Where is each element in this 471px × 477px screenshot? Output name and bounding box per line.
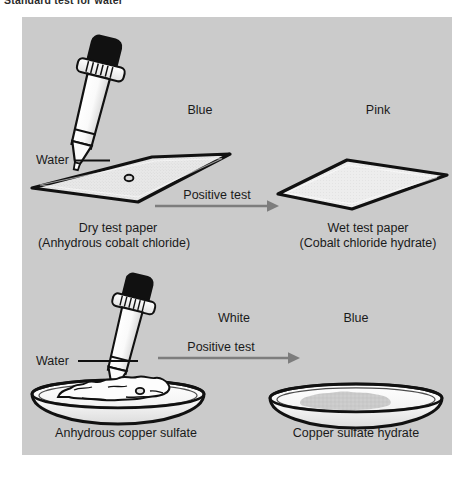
figure-root: Standard test for water [0,0,471,477]
caption-after-bottom-line1: Copper sulfate hydrate [293,426,419,440]
caption-before-top-line1: Dry test paper [79,221,158,235]
label-color-before-bottom: White [218,311,250,325]
label-water-bottom: Water [36,354,69,368]
illustration-panel: Water Blue Dry test paper (Anhydrous cob… [22,17,452,455]
arrow-right-icon-top [155,200,279,211]
watch-glass-hydrate [270,384,442,428]
caption-before-bottom-line1: Anhydrous copper sulfate [55,426,197,440]
label-color-before-top: Blue [187,103,212,117]
test-paper-wet [278,160,447,209]
label-arrow-bottom: Positive test [187,340,254,354]
caption-before-top-line2: (Anhydrous cobalt chloride) [38,236,190,250]
caption-after-top-line2: (Cobalt chloride hydrate) [300,236,437,250]
arrow-right-icon-bottom [158,352,300,363]
label-color-after-top: Pink [366,103,390,117]
watch-glass-anhydrous [32,376,204,424]
label-water-top: Water [36,153,69,167]
label-color-after-bottom: Blue [343,311,368,325]
caption-after-top-line1: Wet test paper [327,221,408,235]
figure-caption: Standard test for water [4,0,123,6]
label-arrow-top: Positive test [183,188,250,202]
